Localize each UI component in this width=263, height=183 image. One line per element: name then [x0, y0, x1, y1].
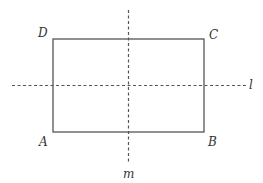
line-label-m: m: [123, 167, 134, 181]
vertex-label-c: C: [209, 28, 218, 42]
vertex-label-d: D: [37, 26, 48, 40]
vertex-label-b: B: [207, 135, 217, 149]
rectangle-diagram: D C A B l m: [0, 0, 263, 183]
line-label-l: l: [249, 78, 253, 92]
vertex-label-a: A: [38, 135, 48, 149]
